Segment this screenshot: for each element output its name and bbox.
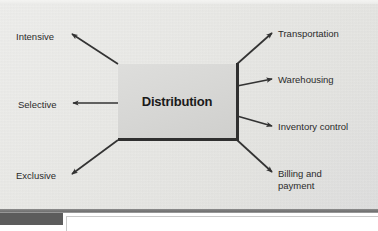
label-selective: Selective [18,99,57,111]
slide-footer [0,209,378,231]
arrow-intensive [72,34,118,64]
center-node-right-shadow [236,63,239,141]
arrow-exclusive [72,140,118,174]
arrow-billing-payment [237,140,272,172]
slide-page: Distribution Intensive Selective Exclusi… [0,0,378,231]
label-billing-payment-line2: payment [278,180,314,192]
center-node-label: Distribution [118,64,236,138]
center-node-bottom-shadow [118,138,239,141]
label-transportation: Transportation [278,28,339,40]
label-intensive: Intensive [16,31,54,43]
footer-panel [66,216,378,231]
arrow-warehousing [237,79,272,86]
arrow-inventory-control [237,116,272,126]
label-warehousing: Warehousing [278,74,334,86]
arrow-transportation [237,33,272,64]
label-exclusive: Exclusive [16,170,56,182]
footer-tab-block [0,213,63,225]
label-billing-payment-line1: Billing and [278,168,322,180]
label-inventory-control: Inventory control [278,121,348,133]
